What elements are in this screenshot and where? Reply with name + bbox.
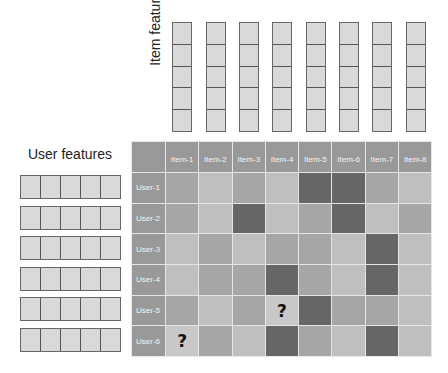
rating-cell xyxy=(399,234,432,265)
matrix-row: User-4 xyxy=(132,265,432,296)
row-header-user-5: User-5 xyxy=(132,295,166,326)
feature-cell xyxy=(340,45,358,67)
feature-cell xyxy=(307,110,325,131)
rating-cell xyxy=(265,234,298,265)
user-feature-vector xyxy=(20,297,121,321)
rating-cell xyxy=(365,295,398,326)
rating-cell xyxy=(299,326,332,357)
feature-cell xyxy=(207,88,225,110)
feature-cell xyxy=(81,237,101,259)
feature-cell xyxy=(21,298,41,320)
rating-cell xyxy=(265,203,298,234)
rating-cell xyxy=(265,326,298,357)
feature-cell xyxy=(240,88,258,110)
user-feature-vector xyxy=(20,206,121,230)
rating-cell xyxy=(232,234,265,265)
feature-cell xyxy=(173,23,191,45)
rating-cell xyxy=(332,326,365,357)
rating-cell xyxy=(365,265,398,296)
unknown-rating-cell: ? xyxy=(265,295,298,326)
rating-cell xyxy=(399,203,432,234)
rating-cell xyxy=(199,173,232,204)
feature-cell xyxy=(340,110,358,131)
feature-cell xyxy=(41,207,61,229)
feature-cell xyxy=(307,23,325,45)
rating-cell xyxy=(399,173,432,204)
feature-cell xyxy=(81,298,101,320)
column-header-item-5: Item-5 xyxy=(299,142,332,173)
feature-cell xyxy=(41,268,61,290)
item-feature-vector xyxy=(206,22,226,132)
feature-cell xyxy=(273,23,291,45)
matrix-body: User-1User-2User-3User-4User-5?User-6? xyxy=(132,173,432,357)
feature-cell xyxy=(81,329,101,351)
matrix-row: User-6? xyxy=(132,326,432,357)
feature-cell xyxy=(340,88,358,110)
rating-cell xyxy=(299,234,332,265)
item-feature-vector xyxy=(339,22,359,132)
rating-cell xyxy=(332,173,365,204)
rating-cell xyxy=(399,326,432,357)
feature-cell xyxy=(407,88,425,110)
column-header-item-3: Item-3 xyxy=(232,142,265,173)
rating-cell xyxy=(299,295,332,326)
rating-cell xyxy=(299,173,332,204)
user-feature-vector xyxy=(20,328,121,352)
rating-cell xyxy=(199,265,232,296)
rating-cell xyxy=(265,173,298,204)
question-mark-icon: ? xyxy=(277,301,287,321)
matrix-header-row: Item-1Item-2Item-3Item-4Item-5Item-6Item… xyxy=(132,142,432,173)
feature-cell xyxy=(273,45,291,67)
item-feature-vector xyxy=(406,22,426,132)
rating-cell xyxy=(299,203,332,234)
feature-cell xyxy=(240,45,258,67)
feature-cell xyxy=(373,23,391,45)
feature-cell xyxy=(61,237,81,259)
feature-cell xyxy=(207,23,225,45)
feature-cell xyxy=(41,298,61,320)
rating-cell xyxy=(299,265,332,296)
feature-cell xyxy=(307,45,325,67)
feature-cell xyxy=(101,329,120,351)
feature-cell xyxy=(340,23,358,45)
user-feature-vector xyxy=(20,267,121,291)
row-header-user-1: User-1 xyxy=(132,173,166,204)
matrix-row: User-3 xyxy=(132,234,432,265)
feature-cell xyxy=(207,67,225,89)
feature-cell xyxy=(101,207,120,229)
rating-cell xyxy=(199,326,232,357)
feature-cell xyxy=(101,298,120,320)
feature-cell xyxy=(407,110,425,131)
feature-cell xyxy=(101,176,120,198)
feature-cell xyxy=(101,268,120,290)
user-item-matrix: Item-1Item-2Item-3Item-4Item-5Item-6Item… xyxy=(131,141,432,357)
feature-cell xyxy=(373,67,391,89)
feature-cell xyxy=(61,207,81,229)
feature-cell xyxy=(21,237,41,259)
feature-cell xyxy=(41,237,61,259)
feature-cell xyxy=(240,67,258,89)
rating-cell xyxy=(199,295,232,326)
row-header-user-6: User-6 xyxy=(132,326,166,357)
rating-cell xyxy=(332,265,365,296)
rating-cell xyxy=(399,295,432,326)
feature-cell xyxy=(61,329,81,351)
rating-cell xyxy=(332,234,365,265)
feature-cell xyxy=(81,207,101,229)
row-header-user-4: User-4 xyxy=(132,265,166,296)
item-feature-vector xyxy=(306,22,326,132)
feature-cell xyxy=(340,67,358,89)
matrix-row: User-1 xyxy=(132,173,432,204)
rating-cell xyxy=(332,295,365,326)
feature-cell xyxy=(407,23,425,45)
rating-cell xyxy=(232,265,265,296)
feature-cell xyxy=(173,110,191,131)
rating-cell xyxy=(232,326,265,357)
feature-cell xyxy=(273,110,291,131)
rating-cell xyxy=(166,173,199,204)
unknown-rating-cell: ? xyxy=(166,326,199,357)
feature-cell xyxy=(373,45,391,67)
column-header-item-4: Item-4 xyxy=(265,142,298,173)
item-feature-vector xyxy=(372,22,392,132)
rating-cell xyxy=(365,326,398,357)
